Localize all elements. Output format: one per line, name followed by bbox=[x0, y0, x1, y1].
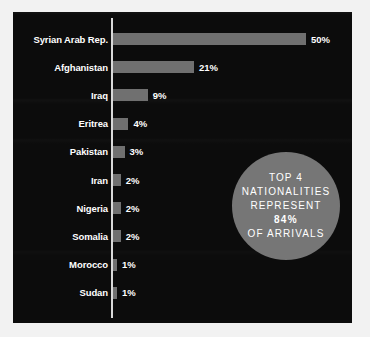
bar bbox=[113, 89, 148, 101]
callout-circle: TOP 4NATIONALITIESREPRESENT84%OF ARRIVAL… bbox=[232, 152, 340, 260]
table-row: Afghanistan21% bbox=[13, 54, 352, 80]
callout-line: 84% bbox=[274, 213, 298, 227]
bar-track: 9% bbox=[113, 82, 166, 108]
bar bbox=[113, 202, 121, 214]
callout-line: OF ARRIVALS bbox=[248, 227, 325, 241]
bar bbox=[113, 174, 121, 186]
bar-category-label: Iran bbox=[13, 175, 108, 186]
bar-category-label: Morocco bbox=[13, 259, 108, 270]
bar-category-label: Somalia bbox=[13, 231, 108, 242]
bar-value-label: 1% bbox=[122, 259, 136, 270]
bar bbox=[113, 33, 306, 45]
table-row: Sudan1% bbox=[13, 280, 352, 306]
bar-category-label: Pakistan bbox=[13, 146, 108, 157]
callout-line: NATIONALITIES bbox=[242, 185, 331, 199]
bar-value-label: 2% bbox=[126, 231, 140, 242]
callout-line: TOP 4 bbox=[269, 171, 303, 185]
bar bbox=[113, 118, 128, 130]
bar-value-label: 3% bbox=[130, 146, 144, 157]
bar-value-label: 2% bbox=[126, 175, 140, 186]
bar-category-label: Afghanistan bbox=[13, 62, 108, 73]
bar-category-label: Nigeria bbox=[13, 203, 108, 214]
table-row: Eritrea4% bbox=[13, 111, 352, 137]
bar bbox=[113, 259, 117, 271]
bar-category-label: Syrian Arab Rep. bbox=[13, 34, 108, 45]
bar-track: 2% bbox=[113, 167, 139, 193]
bar-track: 2% bbox=[113, 223, 139, 249]
bar-category-label: Iraq bbox=[13, 90, 108, 101]
bar-track: 4% bbox=[113, 111, 147, 137]
bar-track: 3% bbox=[113, 139, 143, 165]
bar bbox=[113, 146, 125, 158]
bar-track: 21% bbox=[113, 54, 218, 80]
bar bbox=[113, 287, 117, 299]
bar-value-label: 9% bbox=[153, 90, 167, 101]
callout-line: REPRESENT bbox=[250, 199, 321, 213]
table-row: Syrian Arab Rep.50% bbox=[13, 26, 352, 52]
bar-track: 1% bbox=[113, 280, 136, 306]
bar-category-label: Sudan bbox=[13, 287, 108, 298]
bar-track: 1% bbox=[113, 252, 136, 278]
bar-value-label: 1% bbox=[122, 287, 136, 298]
bar-value-label: 4% bbox=[133, 118, 147, 129]
bar-chart-panel: Syrian Arab Rep.50%Afghanistan21%Iraq9%E… bbox=[13, 12, 352, 323]
bar bbox=[113, 61, 194, 73]
bar-value-label: 21% bbox=[199, 62, 218, 73]
bar-category-label: Eritrea bbox=[13, 118, 108, 129]
bar-value-label: 2% bbox=[126, 203, 140, 214]
bar-value-label: 50% bbox=[311, 34, 330, 45]
table-row: Iraq9% bbox=[13, 82, 352, 108]
bar-track: 50% bbox=[113, 26, 330, 52]
bar bbox=[113, 230, 121, 242]
bar-track: 2% bbox=[113, 195, 139, 221]
